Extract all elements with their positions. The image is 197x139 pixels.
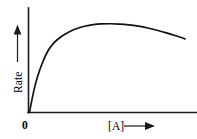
origin-label: 0 — [22, 119, 28, 131]
plot-canvas: Rate [A] 0 — [0, 0, 197, 139]
x-axis-label: [A] — [108, 120, 124, 132]
y-axis-label: Rate — [12, 72, 24, 93]
plot-background — [0, 0, 197, 139]
rate-vs-concentration-figure: Rate [A] 0 — [0, 0, 197, 139]
